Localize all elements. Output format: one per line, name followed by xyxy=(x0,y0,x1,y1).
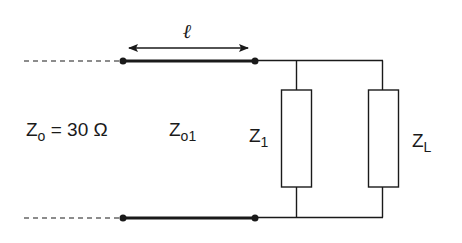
z01-label: Zo1 xyxy=(169,119,196,144)
z1-label: Z1 xyxy=(249,125,269,150)
bottom-conductor xyxy=(24,215,383,222)
z1-branch xyxy=(282,61,312,218)
z1-impedance-box xyxy=(282,90,312,187)
zl-branch xyxy=(369,61,399,218)
z0-value: = 30 Ω xyxy=(45,119,107,140)
z01-subscript: o1 xyxy=(181,128,197,144)
node-dot-top-right xyxy=(252,58,259,65)
z0-main: Z xyxy=(26,119,38,140)
z01-main: Z xyxy=(169,119,181,140)
z0-subscript: o xyxy=(38,128,46,144)
zl-main: Z xyxy=(412,130,424,151)
length-dimension: ℓ xyxy=(129,20,248,48)
zl-label: ZL xyxy=(412,130,432,155)
node-dot-bottom-right xyxy=(252,215,259,222)
zl-impedance-box xyxy=(369,90,399,187)
top-conductor xyxy=(24,58,383,65)
node-dot-top-left xyxy=(120,58,127,65)
zl-subscript: L xyxy=(424,139,432,155)
z0-label: Zo = 30 Ω xyxy=(26,119,108,144)
length-label: ℓ xyxy=(183,20,192,42)
node-dot-bottom-left xyxy=(120,215,127,222)
transmission-line-diagram: ℓ Zo = 30 Ω Zo1 Z1 ZL xyxy=(0,0,462,243)
z1-main: Z xyxy=(249,125,261,146)
z1-subscript: 1 xyxy=(261,134,269,150)
